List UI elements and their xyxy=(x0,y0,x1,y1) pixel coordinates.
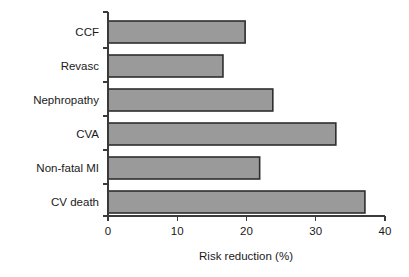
x-tick-label-40: 40 xyxy=(379,225,392,237)
category-label-revasc: Revasc xyxy=(61,60,100,72)
category-label-cva: CVA xyxy=(76,128,99,140)
risk-reduction-bar-chart: CCF Revasc Nephropathy CVA Non-fatal MI … xyxy=(0,0,409,277)
x-tick-label-0: 0 xyxy=(105,225,111,237)
bar-cv-death xyxy=(108,191,365,213)
x-tick-label-20: 20 xyxy=(240,225,253,237)
x-axis-title: Risk reduction (%) xyxy=(199,250,293,262)
bar-revasc xyxy=(108,55,223,77)
x-tick-label-30: 30 xyxy=(309,225,322,237)
bar-non-fatal-mi xyxy=(108,157,260,179)
bar-ccf xyxy=(108,21,245,43)
category-label-nephropathy: Nephropathy xyxy=(33,94,99,106)
x-tick-label-10: 10 xyxy=(171,225,184,237)
category-label-cv-death: CV death xyxy=(51,196,99,208)
bar-cva xyxy=(108,123,336,145)
chart-canvas: CCF Revasc Nephropathy CVA Non-fatal MI … xyxy=(0,0,409,277)
bar-nephropathy xyxy=(108,89,273,111)
category-label-ccf: CCF xyxy=(75,26,99,38)
category-label-non-fatal-mi: Non-fatal MI xyxy=(36,162,99,174)
